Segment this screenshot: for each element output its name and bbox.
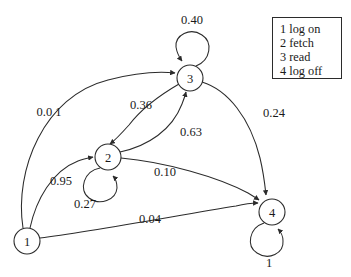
state-transition-diagram: 1 2 3 4 0.0 1 0.95 0.04 0.27 0.63 0.10 0… <box>0 0 351 277</box>
node-3-label: 3 <box>187 72 193 86</box>
node-2-label: 2 <box>105 151 111 165</box>
edge-4-self-loop <box>250 223 283 256</box>
node-4-label: 4 <box>269 206 276 220</box>
node-4[interactable]: 4 <box>259 199 285 225</box>
node-1[interactable]: 1 <box>14 228 40 254</box>
node-2[interactable]: 2 <box>95 144 121 170</box>
edge-label-3-self-loop: 0.40 <box>181 13 203 27</box>
edge-1-to-2 <box>30 157 93 228</box>
node-1-label: 1 <box>24 235 30 249</box>
edge-label-3-to-2: 0.36 <box>130 98 152 112</box>
edge-label-1-to-3: 0.0 1 <box>37 105 62 119</box>
edge-label-4-self-loop: 1 <box>266 256 272 270</box>
edge-label-1-to-2: 0.95 <box>50 174 72 188</box>
legend: 1 log on 2 fetch 3 read 4 log off <box>272 17 342 79</box>
edge-label-2-to-3: 0.63 <box>180 125 202 139</box>
edge-label-2-to-4: 0.10 <box>154 165 176 179</box>
edge-label-1-to-4: 0.04 <box>139 212 162 226</box>
edge-3-to-2 <box>110 84 179 144</box>
legend-row-4: 4 log off <box>280 64 341 78</box>
edge-label-3-to-4: 0.24 <box>263 106 286 120</box>
legend-row-2: 2 fetch <box>280 36 341 50</box>
edge-3-self-loop <box>176 32 209 66</box>
legend-row-3: 3 read <box>280 50 341 64</box>
node-3[interactable]: 3 <box>177 65 203 91</box>
legend-row-1: 1 log on <box>280 22 341 36</box>
edge-label-2-self-loop: 0.27 <box>74 197 96 211</box>
edge-2-to-4 <box>121 158 259 200</box>
